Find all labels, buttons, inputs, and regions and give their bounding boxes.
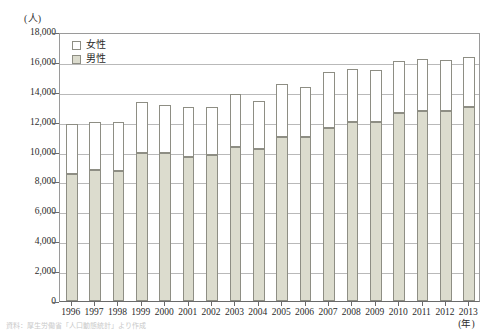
- bar-group[interactable]: [370, 32, 382, 301]
- bar-group[interactable]: [89, 32, 101, 301]
- x-axis-tick-label: 2009: [365, 307, 384, 317]
- y-axis-tick: [52, 63, 59, 64]
- bar-group[interactable]: [463, 32, 475, 301]
- legend-swatch-female: [72, 41, 81, 50]
- y-axis-tick: [52, 93, 59, 94]
- bar-segment-male[interactable]: [136, 153, 148, 301]
- bar-group[interactable]: [183, 32, 195, 301]
- bar-segment-female[interactable]: [206, 107, 218, 156]
- x-axis-tick-label: 2001: [178, 307, 197, 317]
- bar-segment-female[interactable]: [66, 124, 78, 174]
- y-axis-tick: [52, 302, 59, 303]
- y-axis-tick: [52, 242, 59, 243]
- x-axis-tick: [468, 302, 469, 306]
- bar-group[interactable]: [136, 32, 148, 301]
- x-axis-tick: [234, 302, 235, 306]
- bar-segment-male[interactable]: [393, 113, 405, 301]
- bars-container: [60, 34, 479, 301]
- bar-segment-female[interactable]: [347, 69, 359, 121]
- bar-group[interactable]: [206, 32, 218, 301]
- bar-group[interactable]: [113, 32, 125, 301]
- bar-segment-female[interactable]: [113, 122, 125, 171]
- bar-segment-female[interactable]: [370, 70, 382, 122]
- x-axis-tick-label: 2007: [318, 307, 337, 317]
- x-axis-tick: [422, 302, 423, 306]
- bar-segment-female[interactable]: [417, 59, 429, 111]
- bar-segment-female[interactable]: [253, 101, 265, 150]
- y-axis-tick: [52, 272, 59, 273]
- legend-item-female: 女性: [72, 40, 106, 50]
- x-axis-tick-label: 2008: [342, 307, 361, 317]
- bar-segment-male[interactable]: [370, 122, 382, 301]
- legend-label-female: 女性: [86, 40, 106, 50]
- legend-swatch-male: [72, 55, 81, 64]
- bar-segment-male[interactable]: [159, 153, 171, 301]
- x-axis-tick: [71, 302, 72, 306]
- bar-segment-female[interactable]: [300, 87, 312, 138]
- bar-group[interactable]: [417, 32, 429, 301]
- bar-segment-male[interactable]: [463, 107, 475, 301]
- x-axis-tick-label: 1997: [85, 307, 104, 317]
- x-axis-tick: [188, 302, 189, 306]
- x-axis-tick: [141, 302, 142, 306]
- x-axis-unit-label: (年): [458, 319, 474, 329]
- bar-segment-female[interactable]: [463, 57, 475, 107]
- bar-segment-female[interactable]: [89, 122, 101, 171]
- y-axis-tick: [52, 212, 59, 213]
- bar-segment-male[interactable]: [206, 155, 218, 301]
- x-axis-tick: [375, 302, 376, 306]
- bar-group[interactable]: [276, 32, 288, 301]
- bar-segment-female[interactable]: [230, 94, 242, 147]
- x-axis-tick-label: 2000: [155, 307, 174, 317]
- legend-label-male: 男性: [86, 54, 106, 64]
- x-axis-tick: [328, 302, 329, 306]
- bar-segment-male[interactable]: [300, 137, 312, 301]
- bar-segment-female[interactable]: [136, 102, 148, 153]
- bar-segment-male[interactable]: [230, 147, 242, 301]
- x-axis-tick-label: 2005: [272, 307, 291, 317]
- bar-segment-male[interactable]: [417, 111, 429, 301]
- bar-segment-female[interactable]: [276, 84, 288, 137]
- bar-group[interactable]: [253, 32, 265, 301]
- bar-segment-female[interactable]: [323, 72, 335, 128]
- x-axis-tick-label: 2004: [248, 307, 267, 317]
- bar-group[interactable]: [66, 32, 78, 301]
- x-axis-tick: [94, 302, 95, 306]
- bar-group[interactable]: [347, 32, 359, 301]
- bar-segment-male[interactable]: [66, 174, 78, 301]
- bar-segment-female[interactable]: [159, 105, 171, 154]
- x-axis-tick-label: 2010: [389, 307, 408, 317]
- x-axis-tick: [164, 302, 165, 306]
- bar-segment-female[interactable]: [393, 61, 405, 113]
- bar-segment-female[interactable]: [183, 107, 195, 157]
- bar-segment-female[interactable]: [440, 60, 452, 111]
- y-axis-tick: [52, 153, 59, 154]
- y-axis-tick: [52, 123, 59, 124]
- bar-segment-male[interactable]: [89, 170, 101, 301]
- bar-segment-male[interactable]: [113, 171, 125, 301]
- bar-group[interactable]: [230, 32, 242, 301]
- x-axis-tick-label: 2013: [459, 307, 478, 317]
- y-axis-labels: 18,00016,00014,00012,00010,0008,0006,000…: [0, 0, 59, 335]
- bar-group[interactable]: [323, 32, 335, 301]
- bar-segment-male[interactable]: [323, 128, 335, 301]
- x-axis-tick-label: 2006: [295, 307, 314, 317]
- bar-segment-male[interactable]: [253, 149, 265, 301]
- x-axis-tick-label: 2002: [202, 307, 221, 317]
- bar-group[interactable]: [300, 32, 312, 301]
- x-axis-tick-label: 1996: [61, 307, 80, 317]
- bar-group[interactable]: [440, 32, 452, 301]
- x-axis-tick-label: 2012: [435, 307, 454, 317]
- bar-group[interactable]: [393, 32, 405, 301]
- bar-segment-male[interactable]: [276, 137, 288, 301]
- x-axis-tick-label: 2003: [225, 307, 244, 317]
- bar-segment-male[interactable]: [440, 111, 452, 301]
- x-axis-tick: [398, 302, 399, 306]
- x-axis-tick-label: 1999: [131, 307, 150, 317]
- legend-item-male: 男性: [72, 54, 106, 64]
- bar-segment-male[interactable]: [347, 122, 359, 301]
- bar-group[interactable]: [159, 32, 171, 301]
- legend: 女性 男性: [72, 40, 106, 64]
- plot-area: [59, 33, 480, 302]
- bar-segment-male[interactable]: [183, 157, 195, 301]
